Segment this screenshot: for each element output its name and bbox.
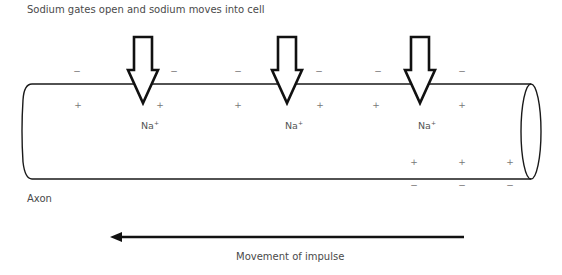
axon-label: Axon bbox=[27, 193, 52, 204]
ion-charge: + bbox=[431, 119, 436, 126]
ion-symbol: Na bbox=[141, 120, 154, 131]
negative-charge-outside-bottom: − bbox=[506, 181, 514, 190]
impulse-label: Movement of impulse bbox=[236, 251, 344, 262]
ion-symbol: Na bbox=[285, 120, 298, 131]
ion-charge: + bbox=[154, 119, 159, 126]
negative-charge-outside-bottom: − bbox=[458, 181, 466, 190]
positive-charge-inside-top: + bbox=[156, 101, 164, 110]
negative-charge-outside-bottom: − bbox=[410, 181, 418, 190]
sodium-gate-arrow-3 bbox=[405, 37, 435, 103]
positive-charge-inside-top: + bbox=[316, 101, 324, 110]
sodium-ion-label: Na+ bbox=[285, 119, 303, 131]
negative-charge-outside-top: − bbox=[234, 67, 242, 76]
negative-charge-outside-top: − bbox=[458, 67, 466, 76]
positive-charge-inside-top: + bbox=[372, 101, 380, 110]
sodium-ion-label: Na+ bbox=[418, 119, 436, 131]
ion-charge: + bbox=[298, 119, 303, 126]
negative-charge-outside-top: − bbox=[170, 67, 178, 76]
sodium-ion-label: Na+ bbox=[141, 119, 159, 131]
axon-diagram bbox=[0, 0, 562, 275]
sodium-gate-arrow-1 bbox=[128, 37, 158, 103]
positive-charge-inside-bottom: + bbox=[458, 158, 466, 167]
positive-charge-inside-bottom: + bbox=[506, 158, 514, 167]
negative-charge-outside-top: − bbox=[374, 67, 382, 76]
ion-symbol: Na bbox=[418, 120, 431, 131]
impulse-arrow bbox=[110, 232, 464, 242]
axon-left-end bbox=[22, 84, 531, 179]
sodium-gate-arrow-2 bbox=[272, 37, 302, 103]
negative-charge-outside-top: − bbox=[315, 67, 323, 76]
positive-charge-inside-top: + bbox=[74, 101, 82, 110]
positive-charge-inside-top: + bbox=[234, 101, 242, 110]
axon-right-end bbox=[521, 84, 541, 179]
positive-charge-inside-bottom: + bbox=[410, 158, 418, 167]
negative-charge-outside-top: − bbox=[73, 67, 81, 76]
positive-charge-inside-top: + bbox=[458, 101, 466, 110]
arrowhead-left-icon bbox=[110, 232, 122, 242]
